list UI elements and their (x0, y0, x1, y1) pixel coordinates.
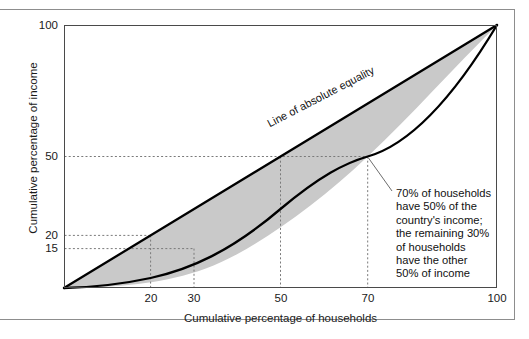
callout-line-2: have 50% of the (396, 200, 522, 213)
x-tick-label-20: 20 (131, 293, 171, 305)
callout-line-5: of households (396, 241, 522, 254)
x-tick-label-50: 50 (261, 293, 301, 305)
lorenz-curve-figure: 100 50 20 15 20 30 50 70 100 Cumulative … (0, 0, 529, 339)
x-tick-label-30: 30 (174, 293, 214, 305)
chart-canvas (0, 0, 529, 339)
x-axis-title: Cumulative percentage of households (64, 312, 497, 324)
callout-leader-line (369, 158, 393, 191)
callout-line-1: 70% of households (396, 187, 522, 200)
callout-line-4: the remaining 30% (396, 227, 522, 240)
callout-line-7: 50% of income (396, 267, 522, 280)
callout-line-3: country's income; (396, 214, 522, 227)
callout-line-6: have the other (396, 254, 522, 267)
y-tick-label-100: 100 (26, 20, 58, 32)
x-tick-label-100: 100 (477, 293, 517, 305)
lorenz-callout-annotation: 70% of households have 50% of the countr… (396, 187, 522, 281)
x-tick-label-70: 70 (348, 293, 388, 305)
y-axis-title: Cumulative percentage of income (27, 48, 39, 248)
